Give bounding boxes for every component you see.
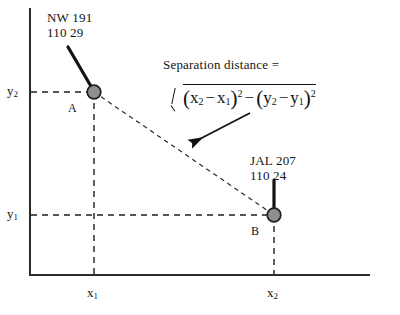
callout-b-text: JAL 207 110 24 [250,153,296,184]
callout-a-line2: 110 29 [47,25,92,40]
formula-exponent-2: 2 [311,88,316,99]
callout-a-line1: NW 191 [47,10,92,25]
point-b-label: B [251,224,259,238]
x1-subscript: 1 [94,291,99,301]
figure-canvas [0,0,400,315]
separation-distance-figure: NW 191 110 29 JAL 207 110 24 Separation … [0,0,400,315]
callout-b-line1: JAL 207 [250,153,296,168]
point-a-marker[interactable] [87,85,101,99]
x-axis-tick-x1: x1 [87,285,98,302]
y-axis-tick-y2: y2 [7,83,18,100]
separation-distance-formula: (x2−x1)2−(y2−y1)2 [170,84,316,111]
formula-minus-inner-2: − [277,88,291,107]
y-axis-tick-y1: y1 [7,206,18,223]
formula-y1: y [290,88,299,107]
formula-minus-inner-1: − [204,88,218,107]
formula-between-op: − [243,88,257,107]
y1-subscript: 1 [14,212,19,222]
formula-x2: x [190,88,199,107]
callout-b-line2: 110 24 [250,168,296,183]
callout-a-text: NW 191 110 29 [47,10,92,41]
formula-pointer-arrow [192,113,250,143]
formula-open-paren-1: ( [183,86,190,110]
x2-subscript: 2 [274,291,279,301]
formula-y2-sub: 2 [272,96,277,107]
point-b-marker[interactable] [267,208,281,222]
formula-x1: x [217,88,226,107]
x-axis-tick-x2: x2 [267,285,278,302]
callout-a-leader-line [68,47,92,88]
formula-x2-sub: 2 [199,96,204,107]
formula-y2: y [263,88,272,107]
formula-close-paren-1: ) [231,86,238,110]
separation-distance-label: Separation distance = [163,57,279,72]
y2-subscript: 2 [14,89,19,99]
point-a-label: A [68,101,77,115]
formula-close-paren-2: ) [304,86,311,110]
formula-exponent-1: 2 [238,88,243,99]
radical-sign-icon: (x2−x1)2−(y2−y1)2 [170,84,316,111]
